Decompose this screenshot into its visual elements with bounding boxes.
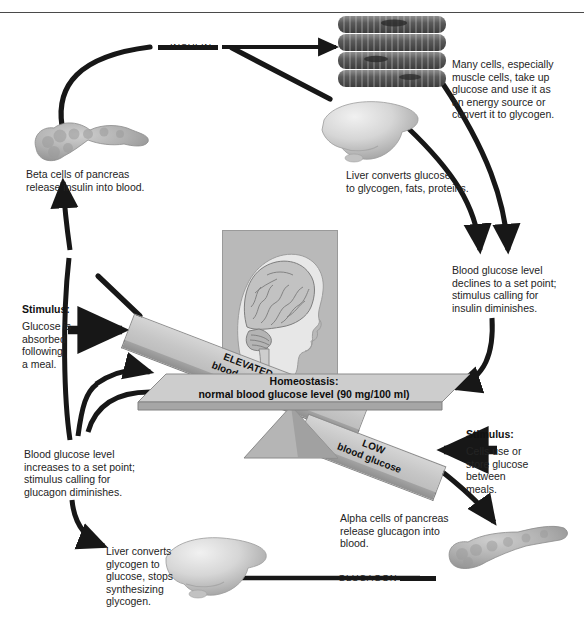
figure-canvas: ELEVATED blood glucose LOW blood glucose… (0, 0, 584, 627)
glucagon-label: GLUCAGON (338, 572, 397, 583)
caption-liver-stores: Liver converts glucose to glycogen, fats… (346, 169, 516, 194)
caption-beta-cells: Beta cells of pancreas release insulin i… (26, 168, 196, 193)
homeostasis-label: Homeostasis: normal blood glucose level … (136, 372, 472, 404)
liver-top-illustration (318, 98, 422, 166)
insulin-label: INSULIN (170, 41, 212, 52)
caption-glucose-declines: Blood glucose level declines to a set po… (452, 264, 584, 314)
homeostasis-line1: Homeostasis: (270, 375, 339, 388)
pancreas-top-illustration (28, 112, 152, 170)
glucagon-bar-right (400, 576, 436, 581)
muscle-cells-illustration (336, 14, 448, 90)
homeostasis-line2: normal blood glucose level (90 mg/100 ml… (198, 388, 409, 401)
caption-glucose-increases: Blood glucose level increases to a set p… (24, 448, 174, 498)
stimulus-top-body: Glucose is absorbed following a meal. (22, 320, 108, 370)
stimulus-bottom-heading: Stimulus: (466, 428, 514, 441)
stimulus-bottom-body: Cells use or store glucose between meals… (466, 445, 570, 495)
caption-muscle-uptake: Many cells, especially muscle cells, tak… (452, 58, 584, 121)
stimulus-top-heading: Stimulus: (22, 303, 70, 316)
caption-liver-releases: Liver converts glycogen to glucose, stop… (106, 545, 192, 608)
caption-alpha-cells: Alpha cells of pancreas release glucagon… (340, 512, 504, 550)
